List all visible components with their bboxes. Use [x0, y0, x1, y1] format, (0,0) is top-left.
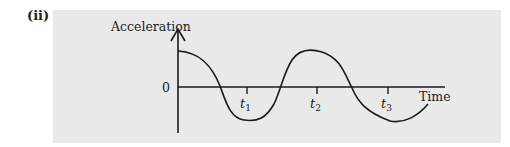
- x-axis-label: Time: [419, 89, 451, 104]
- zero-label: 0: [162, 80, 170, 95]
- acceleration-time-graph: Acceleration 0 Time t1 t2 t3: [0, 0, 510, 147]
- y-axis-label: Acceleration: [110, 19, 191, 34]
